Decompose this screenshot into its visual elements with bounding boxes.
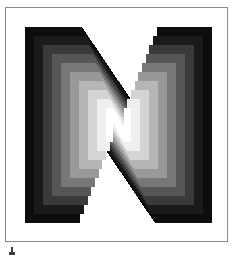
caption-mark-foot — [9, 252, 15, 255]
logo-artwork-stage: Letter N logo with stepped greyscale gra… — [25, 27, 212, 223]
letter-n-logo-icon: Letter N logo with stepped greyscale gra… — [25, 27, 212, 223]
figure-caption-mark — [9, 247, 15, 255]
figure-frame: Letter N logo with stepped greyscale gra… — [5, 7, 228, 242]
figure-root: Letter N logo with stepped greyscale gra… — [0, 0, 242, 259]
caption-mark-glyph — [9, 247, 15, 255]
